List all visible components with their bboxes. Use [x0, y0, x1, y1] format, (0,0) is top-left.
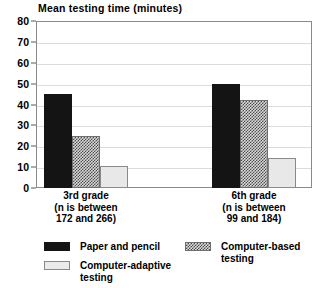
legend-label: Computer-adaptive [80, 260, 171, 272]
bar-chart-figure: Mean testing time (minutes) 0 10 20 30 4… [0, 0, 326, 288]
y-tick-label: 70 [17, 36, 29, 48]
y-tick-label: 60 [17, 57, 29, 69]
x-group-label-3rd-grade: 3rd grade (n is between 172 and 266) [36, 190, 136, 225]
chart-legend: Paper and pencil Computer-based testing … [44, 241, 314, 283]
y-tick-label: 20 [17, 140, 29, 152]
legend-label: Computer-based [221, 241, 300, 253]
legend-swatch-light-icon [44, 261, 70, 270]
bar-3rd-grade-computer-adaptive [100, 166, 128, 188]
legend-label-line2: testing [80, 272, 113, 284]
x-group-sub1: (n is between [36, 202, 136, 214]
x-group-label-6th-grade: 6th grade (n is between 99 and 184) [204, 190, 304, 225]
x-group-sub1: (n is between [204, 202, 304, 214]
chart-title: Mean testing time (minutes) [38, 2, 182, 14]
bar-6th-grade-paper-and-pencil [212, 84, 240, 188]
legend-label-line2: testing [221, 253, 254, 265]
x-group-name: 3rd grade [36, 190, 136, 202]
legend-swatch-solid-icon [44, 242, 70, 251]
bar-3rd-grade-computer-based [72, 136, 100, 188]
y-tick-label: 40 [17, 99, 29, 111]
bar-3rd-grade-paper-and-pencil [44, 94, 72, 188]
legend-label: Paper and pencil [80, 241, 160, 253]
x-group-sub2: 99 and 184) [204, 213, 304, 225]
x-group-sub2: 172 and 266) [36, 213, 136, 225]
legend-swatch-hatch-icon [185, 242, 211, 251]
bar-6th-grade-computer-based [240, 100, 268, 188]
y-tick-label: 80 [17, 15, 29, 27]
y-tick-label: 10 [17, 161, 29, 173]
y-axis: 0 10 20 30 40 50 60 70 80 [0, 21, 36, 188]
x-group-name: 6th grade [204, 190, 304, 202]
y-tick-label: 30 [17, 119, 29, 131]
y-tick-label: 50 [17, 78, 29, 90]
y-tick-label: 0 [23, 182, 29, 194]
bar-6th-grade-computer-adaptive [268, 158, 296, 188]
bars-layer [36, 21, 312, 188]
